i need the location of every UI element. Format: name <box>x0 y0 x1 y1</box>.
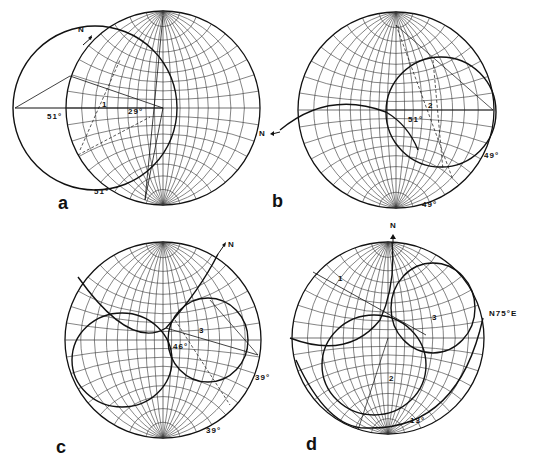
angle-label-center: 29° <box>128 108 143 116</box>
point-label-2: 2 <box>389 375 393 383</box>
angle-label-bottom: 13° <box>410 417 425 425</box>
panel-letter-b: b <box>272 192 283 210</box>
point-label-2: 2 <box>428 102 432 110</box>
wulff-net-c <box>0 230 265 466</box>
panel-letter-d: d <box>306 435 317 453</box>
stereonet-panel-b: N 2 51° 49° 49° b <box>268 0 533 230</box>
angle-label-center: 51° <box>408 116 423 124</box>
stereonet-panel-d: N 1 2 3 N75°E 13° d <box>268 230 533 466</box>
point-label-1: 1 <box>338 275 342 283</box>
north-arrow-label: N <box>259 130 265 138</box>
wulff-net-b <box>268 0 533 230</box>
north-arrow-label: N <box>390 222 396 230</box>
stereonet-panel-c: N 3 46° 39° 39° c <box>0 230 265 466</box>
point-label-3: 3 <box>199 327 203 335</box>
stereonet-panel-a: N 1 51° 29° 51° a <box>0 0 265 230</box>
angle-label-center: 46° <box>173 343 188 351</box>
angle-label-right: 49° <box>484 152 499 160</box>
angle-label-left: 51° <box>47 113 62 121</box>
azimuth-label: N75°E <box>489 310 517 318</box>
panel-letter-c: c <box>56 438 66 456</box>
angle-label-bottom: 49° <box>422 201 437 209</box>
point-label-1: 1 <box>102 101 106 109</box>
angle-label-bottom: 39° <box>206 427 221 435</box>
angle-label-bottom: 51° <box>94 188 109 196</box>
panel-letter-a: a <box>58 194 68 212</box>
wulff-net-d <box>268 230 533 466</box>
north-arrow-label: N <box>228 241 234 249</box>
north-arrow-label: N <box>78 26 84 34</box>
point-label-3: 3 <box>432 314 436 322</box>
